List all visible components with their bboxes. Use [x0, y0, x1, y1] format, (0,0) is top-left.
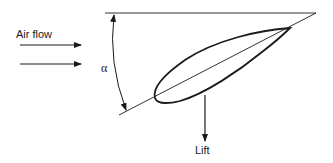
airfoil [155, 28, 290, 103]
angle-arc [113, 15, 127, 110]
air-flow-label: Air flow [16, 28, 52, 40]
alpha-label: α [101, 61, 108, 75]
lift-label: Lift [195, 144, 210, 156]
airfoil-diagram: Air flow α Lift [0, 0, 333, 163]
